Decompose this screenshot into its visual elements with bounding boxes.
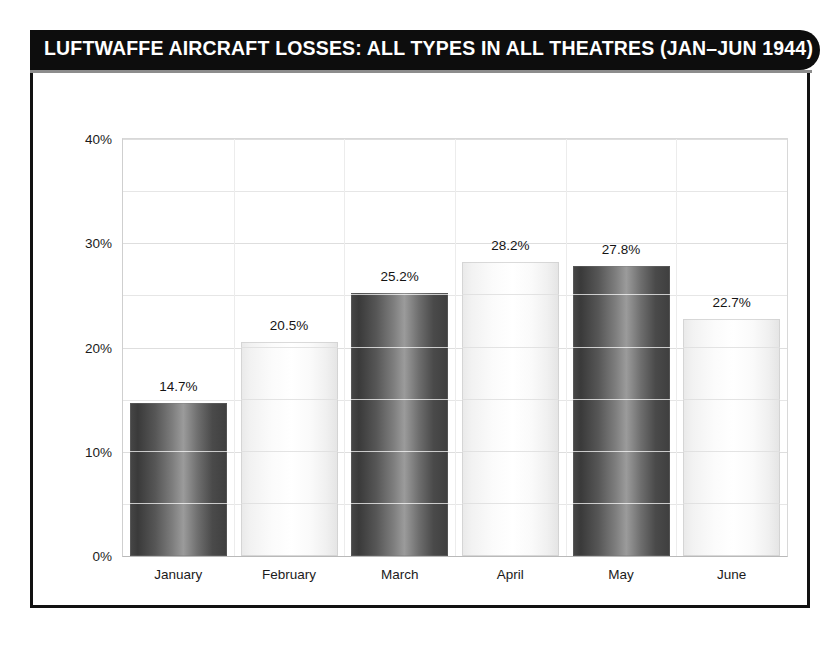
bar-gridline bbox=[683, 399, 780, 400]
bar-gridline bbox=[351, 503, 448, 504]
bar-gridline bbox=[241, 399, 338, 400]
bar-gridline bbox=[462, 294, 559, 295]
bar-value-label: 20.5% bbox=[270, 318, 308, 333]
bar-value-label: 28.2% bbox=[491, 238, 529, 253]
bar-value-label: 27.8% bbox=[602, 242, 640, 257]
bar-april[interactable]: 28.2%April bbox=[462, 262, 559, 556]
bar-gridline bbox=[573, 451, 670, 452]
y-axis-tick-label: 0% bbox=[92, 549, 112, 564]
page-title: LUFTWAFFE AIRCRAFT LOSSES: ALL TYPES IN … bbox=[44, 36, 813, 60]
bar-gridline bbox=[351, 347, 448, 348]
x-axis-tick-label: February bbox=[262, 567, 316, 582]
bar-gridline bbox=[241, 503, 338, 504]
bar-gridline bbox=[573, 399, 670, 400]
bar-february[interactable]: 20.5%February bbox=[241, 342, 338, 556]
bar-gridline bbox=[351, 294, 448, 295]
bar-value-label: 22.7% bbox=[713, 295, 751, 310]
x-axis-tick-label: January bbox=[154, 567, 202, 582]
title-divider bbox=[30, 70, 812, 73]
bar-gridline bbox=[241, 347, 338, 348]
vertical-gridline bbox=[455, 139, 456, 556]
y-axis-tick-label: 40% bbox=[85, 132, 112, 147]
x-axis-tick-label: April bbox=[497, 567, 524, 582]
vertical-gridline bbox=[566, 139, 567, 556]
bar-gridline bbox=[683, 503, 780, 504]
bar-gridline bbox=[683, 347, 780, 348]
chart-body: 0%10%20%30%40%14.7%January20.5%February2… bbox=[30, 73, 810, 608]
bar-january[interactable]: 14.7%January bbox=[130, 403, 227, 556]
bar-gridline bbox=[573, 294, 670, 295]
bar-gridline bbox=[351, 399, 448, 400]
bar-gridline bbox=[462, 347, 559, 348]
vertical-gridline bbox=[676, 139, 677, 556]
bar-gridline bbox=[462, 399, 559, 400]
y-axis-tick-label: 10% bbox=[85, 444, 112, 459]
x-axis-tick-label: May bbox=[608, 567, 634, 582]
chart-title-bar: LUFTWAFFE AIRCRAFT LOSSES: ALL TYPES IN … bbox=[30, 30, 820, 70]
bar-value-label: 14.7% bbox=[159, 379, 197, 394]
vertical-gridline bbox=[344, 139, 345, 556]
bar-gridline bbox=[573, 347, 670, 348]
plot-area: 0%10%20%30%40%14.7%January20.5%February2… bbox=[122, 138, 788, 557]
bar-gridline bbox=[130, 503, 227, 504]
bar-value-label: 25.2% bbox=[381, 269, 419, 284]
bar-gridline bbox=[241, 451, 338, 452]
bar-gridline bbox=[351, 451, 448, 452]
bar-june[interactable]: 22.7%June bbox=[683, 319, 780, 556]
y-axis-tick-label: 30% bbox=[85, 236, 112, 251]
y-axis-tick-label: 20% bbox=[85, 340, 112, 355]
x-axis-tick-label: March bbox=[381, 567, 419, 582]
bar-gridline bbox=[462, 451, 559, 452]
x-axis-tick-label: June bbox=[717, 567, 746, 582]
bar-gridline bbox=[573, 503, 670, 504]
bar-gridline bbox=[683, 451, 780, 452]
bar-gridline bbox=[130, 451, 227, 452]
bar-gridline bbox=[462, 503, 559, 504]
chart-figure: LUFTWAFFE AIRCRAFT LOSSES: ALL TYPES IN … bbox=[30, 30, 810, 608]
bar-march[interactable]: 25.2%March bbox=[351, 293, 448, 556]
vertical-gridline bbox=[234, 139, 235, 556]
bar-may[interactable]: 27.8%May bbox=[573, 266, 670, 556]
